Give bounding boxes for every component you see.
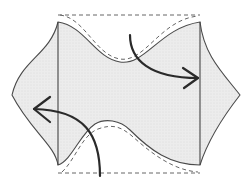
fabric-shape: [12, 22, 240, 165]
fold-diagram: [0, 0, 242, 180]
